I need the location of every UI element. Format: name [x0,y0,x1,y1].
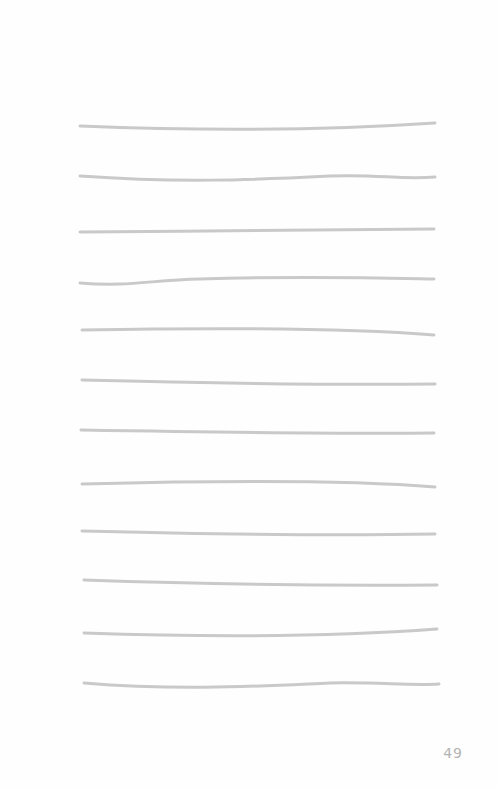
page-number: 49 [443,745,463,761]
ruled-line-9 [82,531,435,535]
ruled-line-11 [84,629,437,636]
ruled-lines [0,0,498,788]
ruled-line-3 [80,229,434,232]
ruled-line-5 [82,329,434,335]
notebook-page: 49 [0,0,498,788]
ruled-line-6 [82,380,435,384]
ruled-line-1 [80,123,435,129]
ruled-line-8 [82,482,435,487]
ruled-line-7 [81,430,434,433]
ruled-line-12 [84,683,439,687]
ruled-line-4 [80,277,434,284]
ruled-line-2 [80,176,435,181]
ruled-line-10 [84,580,437,585]
